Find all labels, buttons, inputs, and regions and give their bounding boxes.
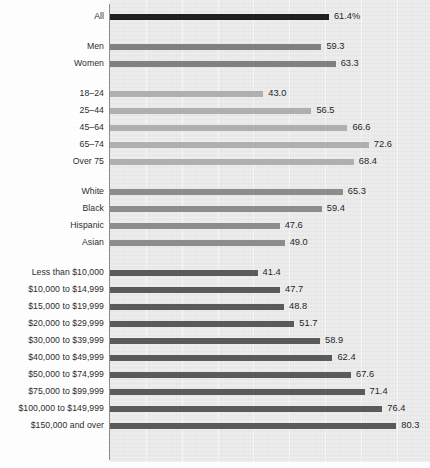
bar-row: $40,000 to $49,99962.4 — [0, 351, 430, 364]
bar-value-label: 67.6 — [356, 368, 374, 381]
bar-value-label: 51.7 — [299, 317, 317, 330]
bar-row: $50,000 to $74,99967.6 — [0, 368, 430, 381]
bar-value-label: 48.8 — [289, 300, 307, 313]
bar-value-label: 47.7 — [285, 283, 303, 296]
bar-row-label: Men — [0, 40, 104, 53]
bar-row: Men59.3 — [0, 40, 430, 53]
bar-value-label: 58.9 — [325, 334, 343, 347]
bar-row: Over 7568.4 — [0, 155, 430, 168]
bar — [110, 125, 347, 132]
bar-row: $30,000 to $39,99958.9 — [0, 334, 430, 347]
bar — [110, 423, 396, 430]
bar-row: Women63.3 — [0, 57, 430, 70]
bar-row-label: 18–24 — [0, 87, 104, 100]
bar — [110, 159, 354, 166]
bar — [110, 406, 382, 413]
bar — [110, 91, 263, 98]
bar-value-label: 65.3 — [348, 185, 366, 198]
bar-row: All61.4% — [0, 10, 430, 23]
bar-value-label: 72.6 — [374, 138, 392, 151]
bar-value-label: 47.6 — [285, 219, 303, 232]
bar-value-label: 61.4% — [334, 10, 360, 23]
bar-row-label: All — [0, 10, 104, 23]
bar — [110, 372, 351, 379]
bar-value-label: 63.3 — [341, 57, 359, 70]
bar — [110, 287, 280, 294]
bar — [110, 142, 369, 149]
bar — [110, 61, 336, 68]
bar-row-label: $100,000 to $149,999 — [0, 402, 104, 415]
bar-row-label: $150,000 and over — [0, 419, 104, 432]
bar-value-label: 56.5 — [316, 104, 334, 117]
bar-row-label: $10,000 to $14,999 — [0, 283, 104, 296]
bar — [110, 206, 322, 213]
bar-row: 45–6466.6 — [0, 121, 430, 134]
bar — [110, 304, 284, 311]
bar-row: $15,000 to $19,99948.8 — [0, 300, 430, 313]
bar-value-label: 76.4 — [387, 402, 405, 415]
bar — [110, 240, 285, 247]
bar-value-label: 41.4 — [263, 266, 281, 279]
bar-row-label: 45–64 — [0, 121, 104, 134]
bar-row: 25–4456.5 — [0, 104, 430, 117]
bar-row-label: $20,000 to $29,999 — [0, 317, 104, 330]
bar — [110, 189, 343, 196]
bar — [110, 44, 321, 51]
bar — [110, 108, 311, 115]
bar-row: $75,000 to $99,99971.4 — [0, 385, 430, 398]
bar-row: 18–2443.0 — [0, 87, 430, 100]
bar-value-label: 71.4 — [370, 385, 388, 398]
bar-row-label: White — [0, 185, 104, 198]
bar-row-label: 25–44 — [0, 104, 104, 117]
bar — [110, 223, 280, 230]
bar-row: Asian49.0 — [0, 236, 430, 249]
bar-row-label: $50,000 to $74,999 — [0, 368, 104, 381]
bar — [110, 355, 332, 362]
bar-row: $100,000 to $149,99976.4 — [0, 402, 430, 415]
bar-value-label: 80.3 — [401, 419, 419, 432]
bar-row-label: Women — [0, 57, 104, 70]
bar-row-label: $75,000 to $99,999 — [0, 385, 104, 398]
bar-row: 65–7472.6 — [0, 138, 430, 151]
bar-row: Black59.4 — [0, 202, 430, 215]
bar-row-label: 65–74 — [0, 138, 104, 151]
bar-value-label: 66.6 — [352, 121, 370, 134]
bar-row-label: $30,000 to $39,999 — [0, 334, 104, 347]
bar — [110, 389, 365, 396]
bar-row: White65.3 — [0, 185, 430, 198]
bar-value-label: 49.0 — [290, 236, 308, 249]
bar-value-label: 59.3 — [326, 40, 344, 53]
bar-row: $20,000 to $29,99951.7 — [0, 317, 430, 330]
bar-row-label: Over 75 — [0, 155, 104, 168]
bar — [110, 270, 258, 277]
bar-value-label: 68.4 — [359, 155, 377, 168]
bar-value-label: 62.4 — [337, 351, 355, 364]
bar-row: $150,000 and over80.3 — [0, 419, 430, 432]
bar-row-label: Black — [0, 202, 104, 215]
bar — [110, 338, 320, 345]
bar-row: Hispanic47.6 — [0, 219, 430, 232]
bar-value-label: 43.0 — [268, 87, 286, 100]
bar-row: Less than $10,00041.4 — [0, 266, 430, 279]
bar — [110, 321, 294, 328]
bar — [110, 14, 329, 21]
bar-row-label: Hispanic — [0, 219, 104, 232]
bar-row-label: Less than $10,000 — [0, 266, 104, 279]
bar-value-label: 59.4 — [327, 202, 345, 215]
bar-row-label: Asian — [0, 236, 104, 249]
bar-row-label: $15,000 to $19,999 — [0, 300, 104, 313]
bar-row-label: $40,000 to $49,999 — [0, 351, 104, 364]
bar-chart: All61.4%Men59.3Women63.318–2443.025–4456… — [0, 0, 430, 468]
bar-row: $10,000 to $14,99947.7 — [0, 283, 430, 296]
